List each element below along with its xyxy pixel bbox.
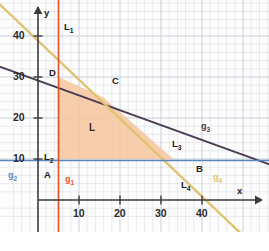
coordinate-plot [0, 0, 269, 251]
y-tick-label-20: 20 [13, 112, 25, 123]
line-label-g1: g1 [65, 175, 74, 186]
line-label-g4: g4 [213, 173, 222, 184]
line-label-g4-sub: 4 [219, 177, 223, 184]
constraint-label-L2-sub: 2 [50, 157, 54, 164]
y-axis-label: y [44, 8, 49, 18]
x-tick-label-10: 10 [73, 208, 85, 219]
vertex-label-A: A [44, 170, 51, 180]
constraint-label-L3-sub: 3 [178, 144, 182, 151]
x-tick-label-40: 40 [196, 208, 208, 219]
constraint-label-L3: L3 [172, 139, 182, 152]
line-label-g1-sub: 1 [71, 179, 75, 186]
constraint-label-L1: L1 [64, 22, 74, 35]
vertex-label-D: D [49, 68, 56, 78]
vertex-label-C: C [112, 76, 119, 86]
line-label-g3-sub: 3 [207, 126, 211, 133]
region-label-L: L [89, 123, 95, 133]
x-tick-label-20: 20 [114, 208, 126, 219]
constraint-label-L1-sub: 1 [70, 27, 74, 34]
vertex-label-B: B [196, 164, 203, 174]
line-label-g2-sub: 2 [14, 175, 18, 182]
line-label-g2: g2 [8, 171, 17, 182]
constraint-label-L4-sub: 4 [187, 185, 191, 192]
line-label-g3: g3 [201, 122, 210, 133]
constraint-label-L4: L4 [181, 180, 191, 193]
y-tick-label-10: 10 [13, 153, 25, 164]
graph-figure: 40 30 20 10 10 20 30 40 x y L1 L2 L3 L4 … [0, 0, 269, 251]
x-tick-label-30: 30 [155, 208, 167, 219]
y-tick-label-30: 30 [13, 71, 25, 82]
constraint-label-L2: L2 [44, 152, 54, 165]
bottom-margin [0, 232, 269, 251]
x-axis-label: x [237, 186, 242, 196]
y-tick-label-40: 40 [13, 30, 25, 41]
